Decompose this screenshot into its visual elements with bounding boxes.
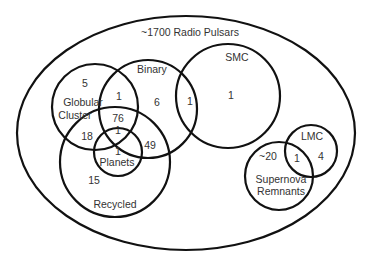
count-globular-binary-recycled: 76 xyxy=(112,112,124,124)
count-binary-only: 6 xyxy=(154,96,160,108)
count-snr-lmc: 1 xyxy=(294,152,300,164)
binary-label: Binary xyxy=(137,63,168,75)
lmc-label: LMC xyxy=(301,130,324,142)
snr-label-line2: Remnants xyxy=(257,185,305,197)
count-recycled-only: 15 xyxy=(88,174,100,186)
count-snr-only: ~20 xyxy=(259,150,277,162)
count-binary-smc: 1 xyxy=(187,95,193,107)
count-all-four: 1 xyxy=(115,124,121,136)
universe-label: ~1700 Radio Pulsars xyxy=(141,26,239,38)
planets-label: Planets xyxy=(99,156,134,168)
venn-diagram: ~1700 Radio Pulsars SMC Binary Globular … xyxy=(0,0,366,262)
count-globular-binary: 1 xyxy=(116,90,122,102)
count-binary-recycled: 49 xyxy=(144,139,156,151)
snr-label-line1: Supernova xyxy=(256,173,307,185)
count-lmc-only: 4 xyxy=(318,150,324,162)
count-globular-only: 5 xyxy=(82,77,88,89)
recycled-label: Recycled xyxy=(93,198,136,210)
globular-label-line1: Globular xyxy=(63,96,103,108)
count-globular-recycled: 18 xyxy=(81,130,93,142)
count-smc-only: 1 xyxy=(228,89,234,101)
count-recycled-planets: 1 xyxy=(115,145,121,157)
smc-label: SMC xyxy=(225,51,249,63)
globular-label-line2: Cluster xyxy=(58,109,92,121)
